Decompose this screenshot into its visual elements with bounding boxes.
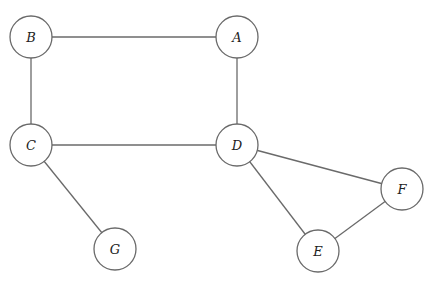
- node-g: G: [94, 228, 136, 270]
- node-label: D: [231, 138, 243, 153]
- graph-diagram: ABCDEFG: [0, 0, 434, 284]
- node-d: D: [216, 124, 258, 166]
- node-e: E: [297, 230, 339, 272]
- node-b: B: [10, 16, 52, 58]
- node-label: F: [396, 182, 407, 197]
- node-c: C: [10, 124, 52, 166]
- node-a: A: [216, 16, 258, 58]
- edge-d-f: [237, 145, 402, 189]
- node-f: F: [381, 168, 423, 210]
- node-label: G: [110, 242, 120, 257]
- node-label: C: [26, 138, 36, 153]
- node-label: B: [25, 30, 36, 45]
- node-label: E: [312, 244, 323, 259]
- nodes-layer: ABCDEFG: [10, 16, 423, 272]
- node-label: A: [231, 30, 241, 45]
